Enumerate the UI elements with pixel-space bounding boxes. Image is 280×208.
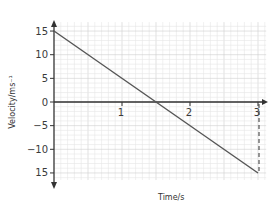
x-tick-label: 1 (118, 107, 124, 118)
y-tick-label: 10 (35, 49, 48, 60)
x-tick-label: 2 (186, 107, 192, 118)
y-axis-up-arrow-icon (51, 20, 57, 27)
x-tick-label: 3 (254, 107, 260, 118)
y-tick-label: −5 (33, 120, 48, 131)
y-tick-label: 0 (42, 97, 48, 108)
y-axis-title: Velocity/ms⁻¹ (8, 75, 17, 128)
y-tick-label: 15 (35, 26, 48, 37)
x-axis-title: Time/s (157, 193, 184, 202)
velocity-time-chart: 151050−5−1015123 Time/s Velocity/ms⁻¹ (0, 0, 280, 208)
y-tick-label: 15 (35, 167, 48, 178)
y-tick-label: 5 (42, 73, 48, 84)
y-tick-label: −10 (27, 144, 48, 155)
y-axis-down-arrow-icon (51, 182, 57, 189)
